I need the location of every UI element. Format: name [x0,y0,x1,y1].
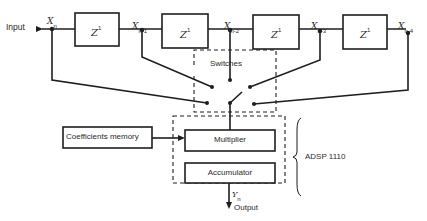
coefficients-memory-label: Coefficients memory [66,132,139,141]
delay-label-1: Z1 [91,22,101,40]
adsp-chip-label: ADSP 1110 [305,152,345,161]
tap-label-xn4: Xn-4 [398,15,413,34]
switch-contact-4 [252,102,256,106]
tap-subscript: n [53,23,56,29]
switches-label: Switches [210,59,242,68]
output-label: Output [234,203,258,212]
output-symbol-subscript: n [237,196,240,202]
adsp-brace [293,118,301,196]
delay-symbol: Z [91,27,98,38]
switch-contact-0 [205,101,209,105]
delay-label-3: Z1 [271,24,281,42]
tap-subscript: n-3 [317,28,326,34]
output-arrow-icon [226,202,232,209]
tap-label-xn1: Xn-1 [132,15,147,34]
tap-label-xn2: Xn-2 [224,15,239,34]
switch-arm [230,92,242,103]
delay-symbol: Z [271,29,278,40]
multiplier-label: Multiplier [185,135,275,144]
input-arrow-icon [36,26,43,32]
tap-label-xn: Xn [47,10,57,29]
delay-label-2: Z1 [180,24,190,42]
delay-exponent: 1 [187,27,190,33]
tap-subscript: n-2 [230,28,239,34]
delay-symbol: Z [180,29,187,40]
switch-contact-2 [228,78,232,82]
tap-label-xn3: Xn-3 [311,15,326,34]
tap-subscript: n-1 [138,28,147,34]
delay-symbol: Z [360,29,367,40]
delay-exponent: 1 [98,25,101,31]
delay-label-4: Z1 [360,24,370,42]
input-label: Input [6,22,25,32]
tap-subscript: n-4 [404,28,413,34]
switch-contact-1 [210,85,214,89]
switch-contact-3 [248,85,252,89]
output-symbol: Yn [232,183,241,202]
accumulator-label: Accumulator [185,168,275,177]
delay-exponent: 1 [278,27,281,33]
delay-exponent: 1 [367,27,370,33]
arrow-icon [178,135,185,141]
